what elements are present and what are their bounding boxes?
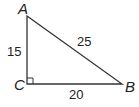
vertex-label-c: C xyxy=(14,76,25,93)
right-angle-marker xyxy=(27,78,33,84)
triangle-diagram: A C B 15 25 20 xyxy=(0,0,139,107)
triangle xyxy=(27,16,122,84)
side-label-ac: 15 xyxy=(7,44,21,59)
side-label-ab: 25 xyxy=(77,34,91,49)
vertex-label-a: A xyxy=(17,0,28,17)
side-label-cb: 20 xyxy=(69,87,83,102)
vertex-label-b: B xyxy=(125,78,135,95)
